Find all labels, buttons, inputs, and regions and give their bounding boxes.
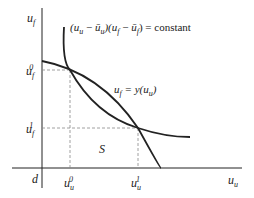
nash-hyperbola	[64, 27, 190, 137]
x-axis-label: uu	[228, 174, 238, 189]
y-axis-label: uf	[27, 12, 35, 27]
origin-label: d	[32, 173, 38, 185]
frontier-equation: uf = y(uu)	[114, 84, 156, 98]
uu0-tick-label: uu0	[64, 176, 73, 192]
diagram-canvas: uf uu d (uu − ūu)(uf − ūf) = constant uf…	[0, 0, 254, 198]
uf0-tick-label: uf0	[26, 64, 33, 80]
region-s-label: S	[99, 143, 105, 155]
uf1-tick-label: uf1	[26, 122, 33, 138]
uu1-tick-label: uu1	[131, 176, 140, 192]
hyperbola-equation: (uu − ūu)(uf − ūf) = constant	[70, 22, 191, 36]
